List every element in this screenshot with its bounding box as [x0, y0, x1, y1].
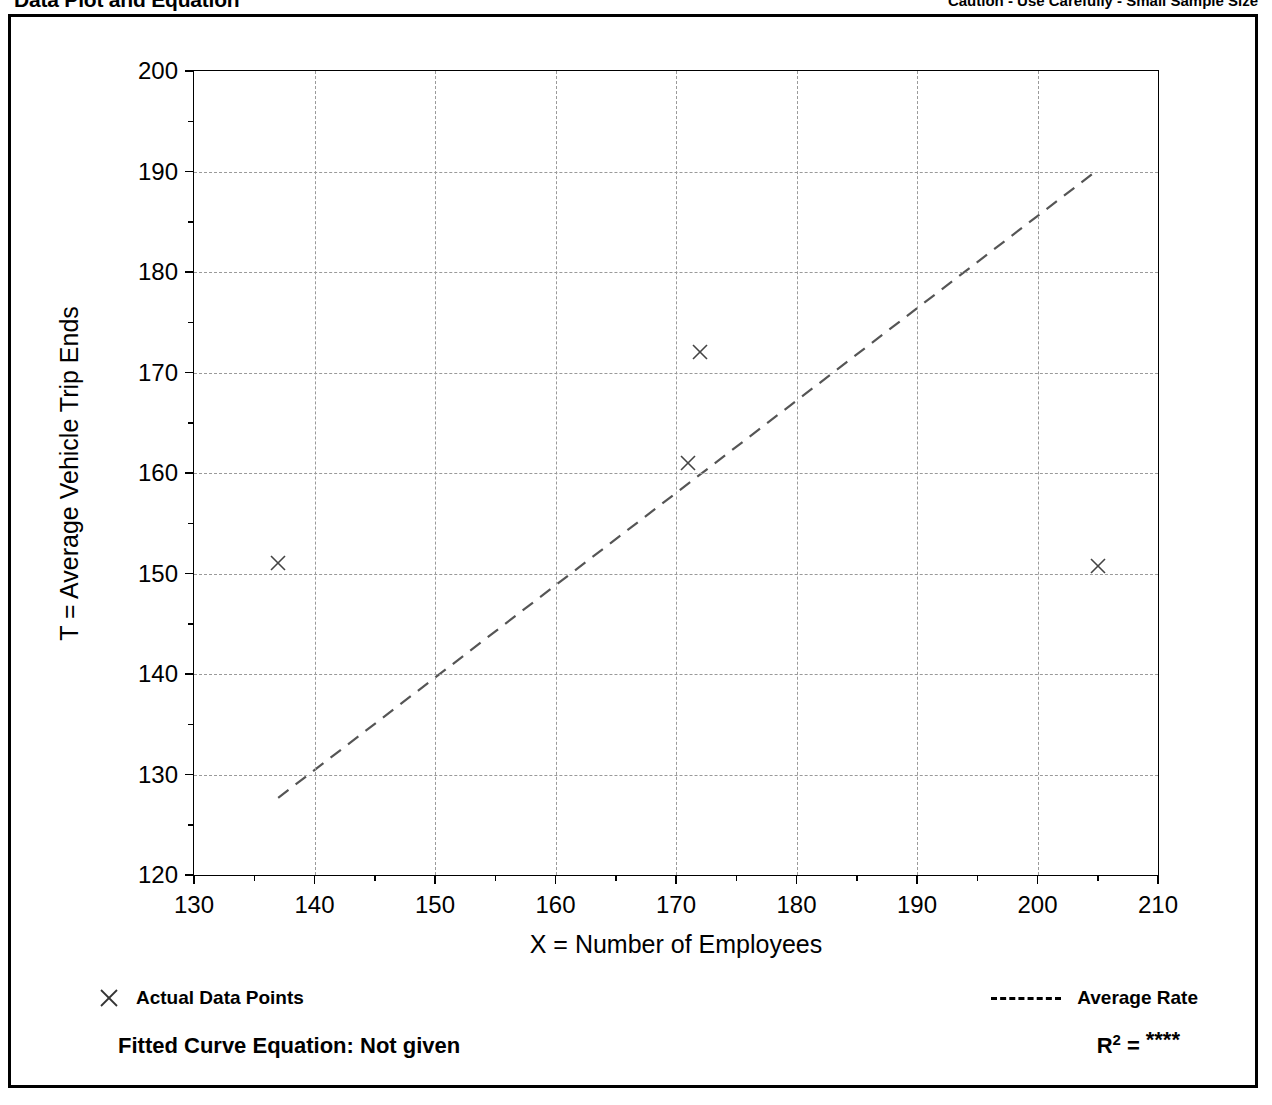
- x-axis-tick-label: 170: [656, 891, 696, 919]
- y-axis-tick-label: 120: [138, 861, 178, 889]
- gridline-horizontal: [194, 674, 1158, 675]
- x-axis-minor-tick: [1097, 875, 1099, 881]
- x-axis-tick: [434, 875, 436, 884]
- gridline-vertical: [435, 71, 436, 875]
- y-axis-tick: [185, 573, 194, 575]
- y-axis-tick-label: 200: [138, 57, 178, 85]
- y-axis-tick-label: 170: [138, 359, 178, 387]
- plot-area: 1201301401501601701801902001301401501601…: [193, 70, 1159, 876]
- page-header: Data Plot and Equation Caution - Use Car…: [0, 0, 1272, 13]
- x-axis-tick: [1037, 875, 1039, 884]
- y-axis-minor-tick: [188, 422, 194, 424]
- x-axis-tick-label: 180: [776, 891, 816, 919]
- data-point-marker: [690, 342, 710, 362]
- gridline-vertical: [1038, 71, 1039, 875]
- x-axis-minor-tick: [374, 875, 376, 881]
- legend-item-average-rate: Average Rate: [991, 987, 1198, 1009]
- x-axis-minor-tick: [977, 875, 979, 881]
- y-axis-minor-tick: [188, 724, 194, 726]
- y-axis-tick: [185, 271, 194, 273]
- x-axis-tick: [916, 875, 918, 884]
- x-axis-tick: [1157, 875, 1159, 884]
- y-axis-tick-label: 140: [138, 660, 178, 688]
- x-axis-tick-label: 200: [1017, 891, 1057, 919]
- dashed-line-icon: [991, 997, 1061, 1000]
- y-axis-title: T = Average Vehicle Trip Ends: [53, 70, 85, 876]
- y-axis-tick: [185, 774, 194, 776]
- x-axis-tick: [675, 875, 677, 884]
- y-axis-tick-label: 150: [138, 560, 178, 588]
- chart-frame: T = Average Vehicle Trip Ends 1201301401…: [8, 14, 1258, 1088]
- x-axis-tick-label: 160: [535, 891, 575, 919]
- fitted-curve-equation: Fitted Curve Equation: Not given: [118, 1033, 460, 1059]
- chart-legend: Actual Data Points Average Rate: [8, 978, 1258, 1018]
- gridline-horizontal: [194, 373, 1158, 374]
- data-point-marker: [678, 453, 698, 473]
- x-axis-title: X = Number of Employees: [193, 930, 1159, 959]
- gridline-horizontal: [194, 473, 1158, 474]
- gridline-vertical: [797, 71, 798, 875]
- page-title: Data Plot and Equation: [14, 0, 239, 12]
- gridline-horizontal: [194, 172, 1158, 173]
- x-axis-minor-tick: [254, 875, 256, 881]
- y-axis-tick-label: 180: [138, 258, 178, 286]
- x-marker-icon: [98, 987, 120, 1009]
- y-axis-tick-label: 160: [138, 459, 178, 487]
- legend-item-actual-data-points: Actual Data Points: [98, 987, 304, 1009]
- x-axis-tick-label: 210: [1138, 891, 1178, 919]
- y-axis-minor-tick: [188, 221, 194, 223]
- equation-row: Fitted Curve Equation: Not given R2 = **…: [8, 1024, 1258, 1068]
- r-squared-equals: =: [1127, 1033, 1140, 1059]
- caution-note: Caution - Use Carefully - Small Sample S…: [948, 0, 1258, 9]
- x-axis-tick: [193, 875, 195, 884]
- gridline-vertical: [556, 71, 557, 875]
- r-squared-symbol: R: [1097, 1033, 1113, 1059]
- y-axis-tick: [185, 472, 194, 474]
- r-squared-value: R2 = ****: [1097, 1033, 1180, 1059]
- x-axis-tick: [555, 875, 557, 884]
- average-rate-trendline: [194, 71, 1158, 875]
- x-axis-tick: [314, 875, 316, 884]
- y-axis-minor-tick: [188, 824, 194, 826]
- x-axis-minor-tick: [856, 875, 858, 881]
- x-axis-title-text: X = Number of Employees: [530, 930, 823, 958]
- r-squared-exponent: 2: [1113, 1031, 1121, 1048]
- x-axis-minor-tick: [495, 875, 497, 881]
- y-axis-tick-label: 190: [138, 158, 178, 186]
- gridline-horizontal: [194, 272, 1158, 273]
- x-axis-tick-label: 140: [294, 891, 334, 919]
- legend-label-average-rate: Average Rate: [1077, 987, 1198, 1009]
- x-axis-tick: [796, 875, 798, 884]
- data-point-marker: [268, 553, 288, 573]
- y-axis-tick-label: 130: [138, 761, 178, 789]
- gridline-horizontal: [194, 574, 1158, 575]
- y-axis-minor-tick: [188, 322, 194, 324]
- x-axis-minor-tick: [736, 875, 738, 881]
- y-axis-minor-tick: [188, 623, 194, 625]
- y-axis-tick: [185, 171, 194, 173]
- legend-label-actual-data-points: Actual Data Points: [136, 987, 304, 1009]
- gridline-horizontal: [194, 775, 1158, 776]
- x-axis-minor-tick: [615, 875, 617, 881]
- gridline-vertical: [315, 71, 316, 875]
- data-point-marker: [1088, 556, 1108, 576]
- gridline-vertical: [917, 71, 918, 875]
- gridline-vertical: [676, 71, 677, 875]
- y-axis-tick: [185, 70, 194, 72]
- x-axis-tick-label: 130: [174, 891, 214, 919]
- y-axis-tick: [185, 372, 194, 374]
- y-axis-minor-tick: [188, 121, 194, 123]
- x-axis-tick-label: 150: [415, 891, 455, 919]
- y-axis-title-text: T = Average Vehicle Trip Ends: [55, 306, 84, 641]
- y-axis-minor-tick: [188, 523, 194, 525]
- y-axis-tick: [185, 673, 194, 675]
- r-squared-result: ****: [1146, 1027, 1180, 1053]
- x-axis-tick-label: 190: [897, 891, 937, 919]
